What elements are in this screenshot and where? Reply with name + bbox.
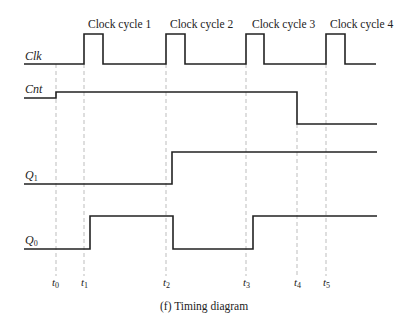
signal-label-clk: Clk bbox=[25, 49, 42, 64]
time-marker-lines bbox=[56, 64, 326, 276]
q1-waveform bbox=[24, 152, 377, 184]
clock-cycle-1-label: Clock cycle 1 bbox=[88, 18, 151, 30]
signal-label-q1: Q1 bbox=[25, 168, 38, 183]
q0-waveform bbox=[24, 216, 377, 249]
clock-cycle-2-label: Clock cycle 2 bbox=[170, 18, 233, 30]
time-marker-t1: t1 bbox=[81, 276, 88, 290]
timing-diagram: Clock cycle 1 Clock cycle 2 Clock cycle … bbox=[0, 0, 404, 330]
clk-waveform bbox=[24, 34, 376, 64]
time-marker-t3: t3 bbox=[243, 276, 250, 290]
time-marker-t2: t2 bbox=[163, 276, 170, 290]
waveforms bbox=[0, 0, 404, 330]
figure-caption: (f) Timing diagram bbox=[160, 300, 248, 312]
signal-label-cnt: Cnt bbox=[25, 82, 42, 97]
time-marker-t5: t5 bbox=[323, 276, 330, 290]
clock-cycle-3-label: Clock cycle 3 bbox=[252, 18, 315, 30]
time-marker-t4: t4 bbox=[294, 276, 301, 290]
clock-cycle-4-label: Clock cycle 4 bbox=[330, 18, 393, 30]
signal-label-q0: Q0 bbox=[25, 233, 38, 248]
time-marker-t0: t0 bbox=[52, 276, 59, 290]
cnt-waveform bbox=[24, 92, 377, 124]
